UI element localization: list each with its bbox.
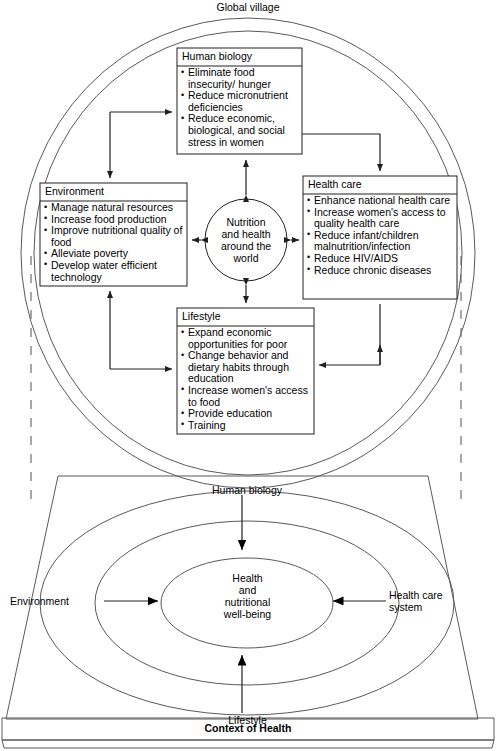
determinant-label-health-care-system: Health care system [389, 589, 489, 613]
box-health-care-title: Health care [303, 176, 457, 192]
wb-line: nutritional [195, 596, 300, 608]
list-item: Reduce chronic diseases [307, 265, 454, 277]
wb-line: well-being [195, 608, 300, 620]
box-health-care[interactable]: Health care Enhance national health care… [303, 176, 457, 299]
hub-line: world [206, 252, 286, 264]
hcs-line-2: system [389, 601, 489, 613]
list-item: Increase women's access to food [181, 385, 311, 408]
box-human-biology-title: Human biology [177, 48, 302, 64]
box-environment[interactable]: Environment Manage natural resources Inc… [40, 183, 187, 286]
box-environment-title: Environment [40, 183, 187, 199]
determinant-label-environment: Environment [10, 595, 105, 607]
context-of-health-label: Context of Health [0, 722, 496, 734]
list-item: Expand economic opportunities for poor [181, 327, 311, 350]
list-item: Reduce HIV/AIDS [307, 253, 454, 265]
global-village-title: Global village [0, 2, 496, 14]
wb-line: and [195, 584, 300, 596]
list-item: Increase women's access to quality healt… [307, 207, 454, 230]
box-human-biology[interactable]: Human biology Eliminate food insecurity/… [177, 48, 302, 154]
hub-line: Nutrition [206, 216, 286, 228]
list-item: Eliminate food insecurity/ hunger [181, 67, 299, 90]
list-item: Improve nutritional quality of food [44, 225, 184, 248]
list-item: Training [181, 420, 311, 432]
hub-line: around the [206, 240, 286, 252]
box-lifestyle[interactable]: Lifestyle Expand economic opportunities … [177, 308, 314, 434]
list-item: Develop water efficient technology [44, 260, 184, 283]
list-item: Provide education [181, 408, 311, 420]
list-item: Reduce infant/children malnutrition/infe… [307, 230, 454, 253]
list-item: Manage natural resources [44, 202, 184, 214]
determinant-label-human-biology: Human biology [192, 484, 302, 496]
list-item: Change behavior and dietary habits throu… [181, 350, 311, 385]
list-item: Reduce economic, biological, and social … [181, 113, 299, 148]
health-wellbeing-label: Health and nutritional well-being [195, 572, 300, 620]
list-item: Enhance national health care [307, 195, 454, 207]
hub-line: and health [206, 228, 286, 240]
nutrition-hub-label: Nutrition and health around the world [206, 216, 286, 264]
list-item: Reduce micronutrient deficiencies [181, 90, 299, 113]
wb-line: Health [195, 572, 300, 584]
box-lifestyle-title: Lifestyle [177, 308, 314, 324]
figure-canvas: Global village Human biology Eliminate f… [0, 0, 496, 751]
hcs-line-1: Health care [389, 589, 489, 601]
